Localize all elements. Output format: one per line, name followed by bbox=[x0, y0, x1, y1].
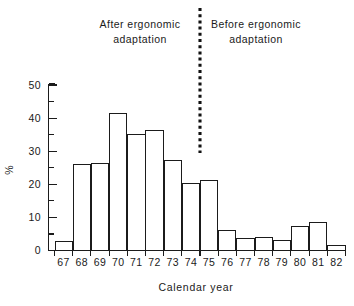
annotation-before-line1: Before ergonomic bbox=[211, 18, 301, 30]
bar-74 bbox=[182, 183, 199, 250]
bar-72 bbox=[146, 131, 163, 251]
annotation-after: After ergonomic adaptation bbox=[100, 18, 181, 45]
bar-80 bbox=[291, 226, 308, 251]
x-tick-label: 76 bbox=[221, 256, 233, 268]
bar-78 bbox=[255, 237, 272, 250]
x-tick-label: 72 bbox=[148, 256, 160, 268]
x-tick-label: 69 bbox=[94, 256, 106, 268]
bar-71 bbox=[128, 135, 145, 251]
y-tick-label: 50 bbox=[29, 79, 41, 91]
y-tick-label: 40 bbox=[29, 112, 41, 124]
x-tick-label: 78 bbox=[257, 256, 269, 268]
x-tick-label: 80 bbox=[294, 256, 306, 268]
y-tick-label-group: 01020304050 bbox=[29, 79, 41, 256]
x-tick-label-group: 67686970717273747576777879808182 bbox=[57, 256, 342, 268]
x-tick-label: 70 bbox=[112, 256, 124, 268]
y-tick-label: 20 bbox=[29, 178, 41, 190]
bar-82 bbox=[328, 245, 345, 250]
y-axis-title: % bbox=[3, 165, 15, 174]
x-tick-label: 74 bbox=[185, 256, 197, 268]
x-tick-label: 81 bbox=[312, 256, 324, 268]
bar-68 bbox=[73, 164, 90, 250]
histogram-svg: 01020304050 6768697071727374757677787980… bbox=[0, 0, 354, 306]
x-tick-label: 67 bbox=[57, 256, 69, 268]
y-tick-group bbox=[49, 85, 57, 251]
x-tick-label: 77 bbox=[239, 256, 251, 268]
y-tick-label: 10 bbox=[29, 211, 41, 223]
x-tick-label: 79 bbox=[276, 256, 288, 268]
x-tick-label: 75 bbox=[203, 256, 215, 268]
bar-69 bbox=[91, 163, 108, 250]
bar-81 bbox=[310, 223, 327, 251]
x-tick-label: 68 bbox=[76, 256, 88, 268]
chart-figure: 01020304050 6768697071727374757677787980… bbox=[0, 0, 354, 306]
bar-77 bbox=[237, 239, 254, 251]
y-tick-label: 0 bbox=[35, 244, 41, 256]
bar-67 bbox=[55, 242, 72, 251]
bar-76 bbox=[219, 231, 236, 251]
x-tick-label: 71 bbox=[130, 256, 142, 268]
annotation-before: Before ergonomic adaptation bbox=[211, 18, 301, 45]
bar-79 bbox=[273, 240, 290, 250]
annotation-after-line1: After ergonomic bbox=[100, 18, 181, 30]
x-tick-label: 82 bbox=[330, 256, 342, 268]
annotation-before-line2: adaptation bbox=[229, 33, 283, 45]
y-tick-label: 30 bbox=[29, 145, 41, 157]
bar-73 bbox=[164, 161, 181, 251]
bar-70 bbox=[110, 114, 127, 251]
x-tick-group bbox=[55, 251, 346, 256]
bar-75 bbox=[201, 180, 218, 250]
x-tick-label: 73 bbox=[166, 256, 178, 268]
x-axis-title: Calendar year bbox=[158, 281, 233, 293]
annotation-after-line2: adaptation bbox=[113, 33, 167, 45]
